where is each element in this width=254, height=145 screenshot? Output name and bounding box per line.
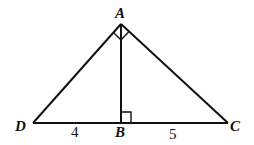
vertex-label-C: C bbox=[230, 118, 241, 134]
measurement-BC: 5 bbox=[169, 126, 177, 142]
segment-AD bbox=[33, 24, 121, 123]
vertex-label-A: A bbox=[114, 5, 125, 21]
segment-AC bbox=[121, 24, 228, 123]
right-angle-marker-B bbox=[121, 112, 131, 123]
vertex-label-B: B bbox=[114, 124, 125, 140]
vertex-label-D: D bbox=[14, 118, 26, 134]
measurement-DB: 4 bbox=[71, 124, 79, 140]
triangle-diagram: A D B C 4 5 bbox=[0, 0, 254, 145]
